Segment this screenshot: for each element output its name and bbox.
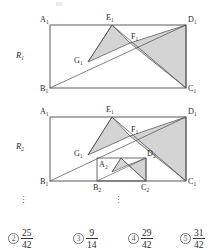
option-marker-2: 2 — [8, 233, 19, 244]
figure-label-R1: R1 — [15, 50, 24, 61]
vertex-label-B2-r2: B2 — [93, 183, 101, 193]
option-numerator-5: 31 — [193, 228, 205, 238]
option-marker-3: 3 — [73, 233, 84, 244]
option-fraction-3: 9 14 — [86, 228, 98, 250]
answer-option-5[interactable]: 5 31 42 — [180, 228, 205, 250]
option-numerator-2: 25 — [21, 228, 33, 238]
ellipsis-left: ⋮ — [19, 196, 28, 205]
vertex-label-A1-r1: A1 — [40, 15, 49, 25]
shaded-triangle-F2-D2-C2-r2 — [128, 158, 146, 181]
option-fraction-5: 31 42 — [193, 228, 205, 250]
vertex-label-C1-r1: C1 — [188, 84, 196, 94]
option-fraction-4: 29 42 — [141, 228, 153, 250]
figure-stage: A1 B1 C1 D1 E1 F1 G1 R1 A1 B1 C1 — [0, 0, 216, 250]
vertex-label-A2-r2: A2 — [99, 160, 108, 170]
rectangle-R1-group: A1 B1 C1 D1 E1 F1 G1 R1 — [15, 13, 197, 94]
answer-option-2[interactable]: 2 25 42 — [8, 228, 33, 250]
vertex-label-C1-r2: C1 — [188, 177, 196, 187]
answer-options-row: 2 25 42 3 9 14 4 29 42 5 31 42 — [0, 226, 216, 250]
shaded-triangle-E1-G1-F1-r1 — [88, 25, 130, 62]
vertex-label-E1-r2: E1 — [106, 105, 114, 115]
vertex-label-F1-r1: F1 — [131, 32, 139, 42]
vertex-label-G1-r1: G1 — [74, 56, 83, 66]
vertex-label-D1-r2: D1 — [188, 107, 197, 117]
vertex-label-D1-r1: D1 — [188, 15, 197, 25]
option-numerator-3: 9 — [88, 228, 95, 238]
rectangle-R2-group: A1 B1 C1 D1 E1 F1 G1 A2 B2 C2 D2 R2 — [15, 105, 197, 193]
vertex-label-B1-r2: B1 — [40, 177, 48, 187]
option-numerator-4: 29 — [141, 228, 153, 238]
option-marker-5: 5 — [180, 233, 191, 244]
option-denominator-4: 42 — [141, 240, 153, 250]
ellipsis-right: ⋮ — [114, 196, 123, 205]
option-denominator-3: 14 — [86, 240, 98, 250]
answer-option-3[interactable]: 3 9 14 — [73, 228, 98, 250]
vertex-label-B1-r1: B1 — [40, 84, 48, 94]
shaded-triangle-E1-G1-F1-r2 — [88, 117, 130, 155]
shaded-triangle-F1-D1-C1-r1 — [130, 25, 186, 88]
option-denominator-2: 42 — [21, 240, 33, 250]
vertex-label-E1-r1: E1 — [106, 13, 114, 23]
figure-label-R2: R2 — [15, 141, 24, 152]
answer-option-4[interactable]: 4 29 42 — [128, 228, 153, 250]
geometry-figure: A1 B1 C1 D1 E1 F1 G1 R1 A1 B1 C1 — [0, 0, 216, 250]
option-fraction-2: 25 42 — [21, 228, 33, 250]
vertex-label-C2-r2: C2 — [141, 183, 149, 193]
vertex-label-G1-r2: G1 — [74, 149, 83, 159]
vertex-label-F1-r2: F1 — [131, 125, 139, 135]
option-denominator-5: 42 — [193, 240, 205, 250]
vertex-label-A1-r2: A1 — [40, 107, 49, 117]
option-marker-4: 4 — [128, 233, 139, 244]
